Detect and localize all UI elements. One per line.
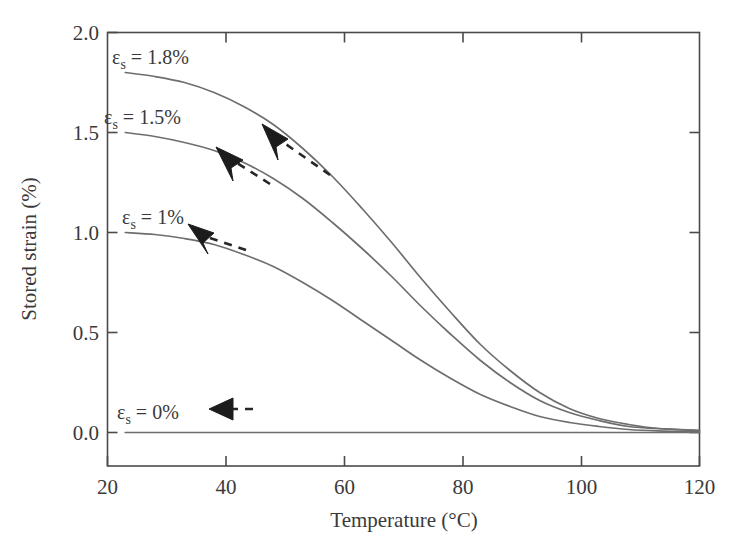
y-tick-label-0-5: 0.5 — [73, 321, 99, 345]
arrow-1 — [188, 224, 246, 254]
curve-label-0: εs = 0% — [117, 401, 179, 427]
arrow-0 — [209, 398, 253, 420]
chart-figure: 2.0 1.5 1.0 0.5 0.0 20 40 60 80 100 120 … — [0, 0, 740, 546]
annotation-arrows — [188, 124, 330, 420]
curve-label-text-1: = 1% — [136, 206, 184, 228]
x-tick-label-120: 120 — [684, 475, 716, 499]
y-axis-ticks-left — [108, 33, 118, 433]
curve-label-15: εs = 1.5% — [104, 106, 181, 132]
curve-stored-strain-1 — [125, 233, 699, 432]
curve-label-text-0: = 0% — [131, 401, 179, 423]
plot-frame — [108, 33, 700, 467]
x-axis-ticks-bottom — [108, 456, 700, 466]
y-tick-label-2-0: 2.0 — [73, 21, 99, 45]
stored-strain-vs-temperature-chart: 2.0 1.5 1.0 0.5 0.0 20 40 60 80 100 120 … — [0, 0, 740, 546]
y-axis-title: Stored strain (%) — [17, 177, 41, 320]
y-tick-label-1-5: 1.5 — [73, 121, 99, 145]
x-tick-label-80: 80 — [453, 475, 474, 499]
x-tick-labels: 20 40 60 80 100 120 — [97, 475, 715, 499]
epsilon-symbol-18: ε — [112, 46, 120, 68]
x-tick-label-20: 20 — [97, 475, 118, 499]
arrow-18 — [262, 124, 330, 175]
x-tick-label-40: 40 — [216, 475, 237, 499]
x-tick-label-60: 60 — [334, 475, 355, 499]
x-axis-title: Temperature (°C) — [330, 508, 477, 532]
x-tick-label-100: 100 — [566, 475, 598, 499]
epsilon-symbol-1: ε — [122, 206, 130, 228]
data-curves — [125, 73, 699, 433]
epsilon-symbol-0: ε — [117, 401, 125, 423]
curve-label-1: εs = 1% — [122, 206, 184, 232]
y-tick-label-1-0: 1.0 — [73, 221, 99, 245]
arrow-15 — [216, 147, 270, 184]
y-axis-ticks-right — [690, 133, 700, 433]
curve-label-18: εs = 1.8% — [112, 46, 189, 72]
curve-label-text-15: = 1.5% — [118, 106, 181, 128]
epsilon-symbol-15: ε — [104, 106, 112, 128]
curve-label-text-18: = 1.8% — [126, 46, 189, 68]
curve-stored-strain-1-5 — [125, 133, 699, 431]
y-tick-labels: 2.0 1.5 1.0 0.5 0.0 — [73, 21, 99, 445]
curve-stored-strain-1-8 — [125, 73, 699, 431]
y-tick-label-0-0: 0.0 — [73, 421, 99, 445]
x-axis-ticks-top — [226, 33, 582, 43]
